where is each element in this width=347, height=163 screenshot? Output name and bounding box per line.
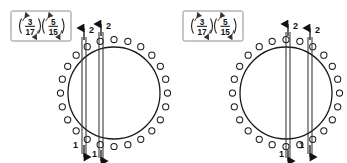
cycle-num-bottom-2: 15 [221, 28, 231, 37]
ring-dot [157, 63, 163, 69]
ring-dot [59, 104, 65, 110]
right-bottom-label-b: 1 [299, 140, 304, 150]
ring-dot [229, 90, 235, 96]
ring-dot [97, 38, 103, 44]
ring-dot [245, 52, 251, 58]
ring-dot [111, 143, 117, 149]
right-top-label-a: 2 [293, 21, 298, 31]
ring-dot [149, 128, 155, 134]
cycle-num-bottom-1: 17 [25, 28, 35, 37]
left-bottom-label-b: 1 [92, 149, 97, 159]
ring-dot [111, 36, 117, 42]
ring-dot [237, 117, 243, 123]
ring-dot [231, 104, 237, 110]
ring-dot [335, 104, 341, 110]
ring-dot [321, 52, 327, 58]
right-chord-a [286, 24, 290, 161]
ring-dot [125, 38, 131, 44]
ring-dot [231, 76, 237, 82]
ring-dot [269, 38, 275, 44]
ring-dot [310, 136, 316, 142]
ring-dot [297, 38, 303, 44]
figure-canvas: 3 17 5 15 [0, 0, 347, 163]
ring-dot [321, 128, 327, 134]
ring-dot [59, 76, 65, 82]
diagram-stage: 3 17 5 15 [0, 0, 347, 163]
ring-dot [329, 63, 335, 69]
cycle-num-top-1: 3 [200, 18, 205, 27]
ring-dot [65, 117, 71, 123]
ring-dot [163, 76, 169, 82]
ring-dot [149, 52, 155, 58]
ring-dot [138, 136, 144, 142]
ring-dot [256, 44, 262, 50]
ring-dot [84, 136, 90, 142]
ring-dot [245, 128, 251, 134]
ring-dot [84, 44, 90, 50]
right-top-label-b: 2 [315, 25, 320, 35]
ring-dot [138, 44, 144, 50]
ring-dot [269, 142, 275, 148]
ring-dot [336, 90, 342, 96]
ring-dot [73, 128, 79, 134]
right-bottom-label-a: 1 [279, 149, 284, 159]
ring-dot [237, 63, 243, 69]
cycle-num-top-2: 5 [51, 18, 56, 27]
cycle-num-bottom-2: 15 [49, 28, 59, 37]
ring-dot [57, 90, 63, 96]
left-dot-ring [57, 36, 170, 149]
cycle-num-top-1: 3 [28, 18, 33, 27]
left-cycle-box-group: 3 17 5 15 [11, 11, 71, 41]
ring-dot [65, 63, 71, 69]
left-top-label-a: 2 [89, 25, 94, 35]
ring-dot [157, 117, 163, 123]
ring-dot [125, 142, 131, 148]
left-top-label-b: 2 [106, 21, 111, 31]
cycle-num-bottom-1: 17 [197, 28, 207, 37]
ring-dot [256, 136, 262, 142]
ring-dot [310, 44, 316, 50]
ring-dot [73, 52, 79, 58]
ring-dot [163, 104, 169, 110]
ring-dot [164, 90, 170, 96]
ring-dot [329, 117, 335, 123]
ring-dot [97, 142, 103, 148]
ring-dot [335, 76, 341, 82]
left-bottom-label-a: 1 [73, 140, 78, 150]
right-cycle-box-group: 3 17 5 15 [183, 11, 243, 41]
cycle-num-top-2: 5 [223, 18, 228, 27]
